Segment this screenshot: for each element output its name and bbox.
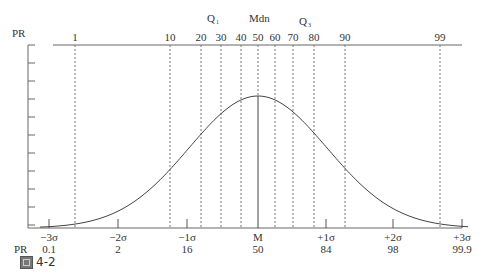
percentile-mark-1: 1	[72, 31, 78, 228]
pr-axis-label-bottom: PR	[14, 243, 28, 255]
percentile-label: 1	[72, 31, 78, 43]
percentile-mark-99: 99	[435, 31, 447, 228]
percentile-mark-30: 30	[216, 31, 228, 228]
sigma-mark: +3σ99.9	[452, 219, 472, 255]
sigma-mark: −1σ16	[178, 219, 196, 255]
percentile-mark-50: 50	[253, 31, 265, 228]
sigma-label: −3σ	[40, 231, 58, 243]
sigma-pr-value: 0.1	[42, 243, 56, 255]
svg-text:3: 3	[308, 22, 311, 28]
percentile-mark-60: 60	[270, 31, 282, 228]
sigma-mark: +1σ84	[317, 219, 335, 255]
svg-text:Q: Q	[207, 12, 215, 24]
q1-label: Q 1	[207, 12, 219, 25]
percentile-mark-10: 10	[165, 31, 177, 228]
q3-label: Q 3	[299, 15, 311, 28]
sigma-pr-value: 99.9	[452, 243, 472, 255]
sigma-label: +1σ	[317, 231, 335, 243]
median-label: Mdn	[249, 12, 270, 24]
percentile-label: 80	[309, 31, 321, 43]
sigma-label: +2σ	[384, 231, 402, 243]
percentile-lines: 110203040506070809099	[72, 31, 446, 228]
sigma-pr-value: 50	[253, 243, 265, 255]
percentile-mark-70: 70	[288, 31, 300, 228]
normal-curve	[40, 96, 468, 227]
percentile-label: 10	[165, 31, 177, 43]
percentile-label: 20	[196, 31, 208, 43]
pr-axis-ticks	[28, 45, 35, 225]
sigma-pr-value: 84	[321, 243, 333, 255]
sigma-pr-value: 16	[182, 243, 194, 255]
sigma-label: −2σ	[109, 231, 127, 243]
sigma-label: +3σ	[453, 231, 471, 243]
sigma-mark: M50	[253, 231, 265, 255]
percentile-label: 70	[288, 31, 300, 43]
figure-icon	[20, 256, 33, 269]
figure-caption: 4-2	[20, 255, 56, 269]
sigma-label: M	[253, 231, 263, 243]
pr-axis-label-top: PR	[12, 27, 26, 39]
sigma-ticks: −3σ0.1−2σ2−1σ16M50+1σ84+2σ98+3σ99.9	[40, 219, 472, 255]
percentile-label: 40	[236, 31, 248, 43]
sigma-mark: +2σ98	[384, 219, 402, 255]
normal-distribution-diagram: PR Q 1 Mdn Q 3 110203040506070809099 −3σ…	[0, 0, 495, 275]
percentile-label: 99	[435, 31, 447, 43]
percentile-mark-40: 40	[236, 31, 248, 228]
figure-caption-text: 4-2	[36, 255, 56, 269]
sigma-pr-value: 2	[115, 243, 121, 255]
sigma-pr-value: 98	[388, 243, 400, 255]
sigma-mark: −3σ0.1	[40, 219, 58, 255]
sigma-mark: −2σ2	[109, 219, 127, 255]
percentile-label: 30	[216, 31, 228, 43]
svg-text:1: 1	[216, 19, 219, 25]
percentile-mark-90: 90	[340, 31, 352, 228]
percentile-label: 90	[340, 31, 352, 43]
percentile-label: 60	[270, 31, 282, 43]
percentile-label: 50	[253, 31, 265, 43]
sigma-label: −1σ	[178, 231, 196, 243]
svg-text:Q: Q	[299, 15, 307, 27]
